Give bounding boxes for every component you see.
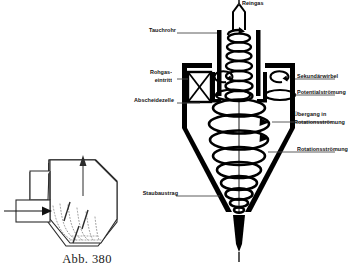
label-abscheidezelle: Abscheidezelle (111, 96, 174, 104)
label-rohgas-line2: eintritt (117, 76, 172, 84)
label-tauchrohr: Tauchrohr (121, 26, 176, 34)
label-rotationsstroemung: Rotationsströmung (297, 145, 348, 153)
vortex-arrow-right (270, 71, 288, 82)
label-reingas: Reingas (242, 0, 263, 7)
figure-abb-381: Reingas Tauchrohr Rohgas- eintritt Absch… (160, 0, 348, 272)
clean-gas-outlet (233, 4, 245, 30)
abscheidezelle-cell (188, 72, 211, 102)
staubaustrag-arrow (233, 215, 245, 262)
abb-381-drawing (160, 0, 348, 272)
label-rohgas-eintritt: Rohgas- eintritt (117, 68, 172, 84)
helix-upper (226, 27, 253, 101)
label-staubaustrag: Staubaustrag (123, 189, 178, 197)
label-uebergang-rotationsstroemung: Übergang in Rotationsströmung (294, 110, 345, 126)
caption-abb-381: Abb. 381 (320, 252, 348, 267)
label-uebergang-line2: Rotationsströmung (294, 118, 345, 126)
caption-abb-380: Abb. 380 (0, 252, 174, 267)
abb-380-drawing (0, 0, 174, 272)
label-rohgas-line1: Rohgas- (150, 68, 172, 75)
figure-abb-380: Abb. 380 (0, 0, 174, 272)
figure-page: Abb. 380 (0, 0, 348, 272)
vortex-finder (217, 30, 261, 96)
label-uebergang-line1: Übergang in (294, 110, 326, 117)
label-potentialstroemung: Potentialströmung (297, 88, 346, 96)
label-sekundaerwirbel: Sekundärwirbel (297, 72, 338, 80)
